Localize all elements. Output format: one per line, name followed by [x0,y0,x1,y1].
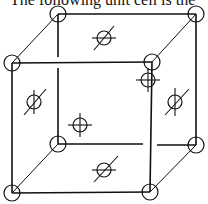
face-atom-back [136,68,160,92]
face-atom-top [92,26,116,50]
face-atom-front [68,113,92,137]
face-atom-right [165,88,189,116]
front-face-edges [12,62,152,193]
face-atom-left [24,89,46,115]
unit-cell-diagram [0,0,208,204]
face-atom-bottom [92,156,118,182]
